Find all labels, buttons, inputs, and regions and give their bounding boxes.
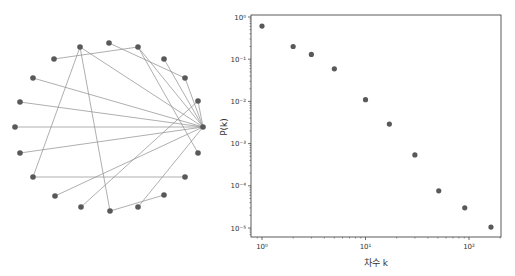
network-node (161, 56, 167, 62)
network-graph (12, 40, 206, 214)
data-point (436, 188, 441, 193)
network-edge (20, 102, 203, 127)
network-node (78, 204, 84, 210)
y-tick-label: 10⁻² (231, 98, 247, 106)
x-axis-ticks: 10⁰10¹10² (256, 237, 500, 251)
network-edge (33, 47, 80, 177)
y-tick-label: 10⁻³ (231, 140, 247, 148)
network-node (135, 44, 141, 50)
figure: 10⁰10⁻¹10⁻²10⁻³10⁻⁴10⁻⁵ 10⁰10¹10² 차수 k P… (0, 0, 515, 276)
y-axis-ticks: 10⁰10⁻¹10⁻²10⁻³10⁻⁴10⁻⁵ (231, 14, 251, 235)
data-point (488, 225, 493, 230)
network-node (135, 204, 141, 210)
data-point (332, 66, 337, 71)
network-node (17, 99, 23, 105)
data-point (259, 23, 264, 28)
x-axis-label: 차수 k (364, 257, 389, 268)
network-edge (80, 47, 110, 211)
network-node (200, 124, 206, 130)
x-tick-label: 10² (463, 243, 475, 251)
x-tick-label: 10⁰ (256, 243, 268, 251)
data-point (387, 121, 392, 126)
data-point (291, 44, 296, 49)
y-tick-label: 10⁻⁴ (231, 182, 247, 190)
data-points (259, 23, 493, 229)
y-tick-label: 10⁻¹ (231, 56, 247, 64)
network-node (107, 208, 113, 214)
network-node (161, 192, 167, 198)
network-edge (164, 59, 203, 127)
network-node (106, 40, 112, 46)
network-edge (81, 101, 198, 207)
network-edge (138, 127, 203, 207)
network-node (30, 174, 36, 180)
x-tick-label: 10¹ (360, 243, 372, 251)
plot-frame (251, 15, 501, 237)
data-point (309, 52, 314, 57)
network-node (195, 98, 201, 104)
network-node (182, 174, 188, 180)
network-edge (138, 47, 198, 153)
network-node (195, 150, 201, 156)
network-edge (80, 47, 203, 127)
network-node (17, 150, 23, 156)
network-node (52, 193, 58, 199)
y-axis-label: P(k) (219, 118, 229, 136)
data-point (462, 205, 467, 210)
y-tick-label: 10⁻⁵ (231, 225, 247, 233)
network-node (77, 44, 83, 50)
data-point (363, 97, 368, 102)
network-edge (109, 43, 185, 78)
network-node (182, 75, 188, 81)
network-node (51, 56, 57, 62)
degree-distribution-chart: 10⁰10⁻¹10⁻²10⁻³10⁻⁴10⁻⁵ 10⁰10¹10² 차수 k P… (219, 14, 501, 269)
network-node (12, 124, 18, 130)
network-node (30, 75, 36, 81)
data-point (412, 152, 417, 157)
y-tick-label: 10⁰ (234, 14, 246, 22)
network-edge (138, 47, 203, 127)
